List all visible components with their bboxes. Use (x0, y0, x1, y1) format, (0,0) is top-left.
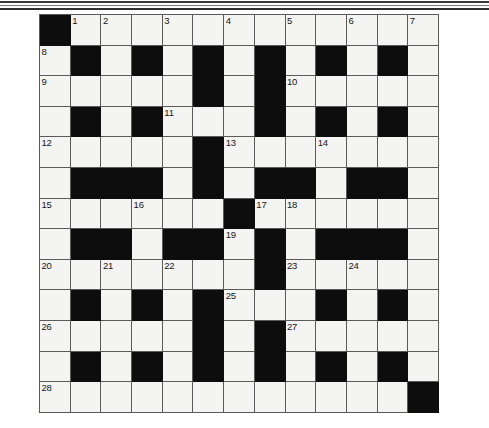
open-cell[interactable] (101, 321, 132, 352)
open-cell[interactable] (193, 107, 224, 138)
open-cell[interactable] (224, 321, 255, 352)
open-cell[interactable] (101, 290, 132, 321)
open-cell[interactable]: 12 (40, 137, 71, 168)
open-cell[interactable] (40, 107, 71, 138)
open-cell[interactable] (286, 107, 317, 138)
open-cell[interactable] (316, 168, 347, 199)
open-cell[interactable] (286, 137, 317, 168)
open-cell[interactable]: 2 (101, 15, 132, 46)
open-cell[interactable] (347, 321, 378, 352)
open-cell[interactable] (255, 137, 286, 168)
open-cell[interactable]: 23 (286, 260, 317, 291)
open-cell[interactable]: 26 (40, 321, 71, 352)
open-cell[interactable] (40, 290, 71, 321)
open-cell[interactable] (255, 382, 286, 413)
open-cell[interactable] (101, 107, 132, 138)
open-cell[interactable]: 18 (286, 199, 317, 230)
open-cell[interactable] (163, 199, 194, 230)
open-cell[interactable] (316, 15, 347, 46)
open-cell[interactable] (347, 137, 378, 168)
open-cell[interactable] (408, 199, 439, 230)
open-cell[interactable] (132, 137, 163, 168)
open-cell[interactable]: 21 (101, 260, 132, 291)
open-cell[interactable] (408, 137, 439, 168)
open-cell[interactable]: 1 (71, 15, 102, 46)
open-cell[interactable]: 14 (316, 137, 347, 168)
open-cell[interactable] (408, 321, 439, 352)
open-cell[interactable]: 17 (255, 199, 286, 230)
open-cell[interactable] (286, 382, 317, 413)
open-cell[interactable]: 5 (286, 15, 317, 46)
open-cell[interactable] (163, 46, 194, 77)
open-cell[interactable] (347, 46, 378, 77)
open-cell[interactable] (224, 382, 255, 413)
open-cell[interactable] (193, 260, 224, 291)
open-cell[interactable] (163, 352, 194, 383)
open-cell[interactable] (286, 46, 317, 77)
open-cell[interactable] (408, 290, 439, 321)
open-cell[interactable] (101, 46, 132, 77)
open-cell[interactable]: 16 (132, 199, 163, 230)
open-cell[interactable] (132, 229, 163, 260)
open-cell[interactable] (132, 260, 163, 291)
open-cell[interactable] (101, 382, 132, 413)
open-cell[interactable] (71, 260, 102, 291)
open-cell[interactable] (286, 352, 317, 383)
open-cell[interactable] (71, 199, 102, 230)
open-cell[interactable] (224, 168, 255, 199)
open-cell[interactable] (408, 352, 439, 383)
open-cell[interactable] (193, 382, 224, 413)
open-cell[interactable] (408, 107, 439, 138)
open-cell[interactable]: 4 (224, 15, 255, 46)
open-cell[interactable] (163, 290, 194, 321)
open-cell[interactable] (40, 168, 71, 199)
open-cell[interactable] (378, 260, 409, 291)
open-cell[interactable]: 6 (347, 15, 378, 46)
open-cell[interactable] (378, 199, 409, 230)
open-cell[interactable] (163, 382, 194, 413)
open-cell[interactable]: 9 (40, 76, 71, 107)
open-cell[interactable] (132, 382, 163, 413)
open-cell[interactable]: 3 (163, 15, 194, 46)
open-cell[interactable]: 11 (163, 107, 194, 138)
open-cell[interactable] (132, 76, 163, 107)
open-cell[interactable]: 15 (40, 199, 71, 230)
open-cell[interactable] (286, 290, 317, 321)
open-cell[interactable] (101, 137, 132, 168)
open-cell[interactable]: 7 (408, 15, 439, 46)
open-cell[interactable] (193, 15, 224, 46)
open-cell[interactable] (255, 290, 286, 321)
open-cell[interactable] (378, 321, 409, 352)
open-cell[interactable] (163, 137, 194, 168)
open-cell[interactable] (132, 321, 163, 352)
open-cell[interactable] (163, 168, 194, 199)
open-cell[interactable]: 13 (224, 137, 255, 168)
open-cell[interactable] (163, 321, 194, 352)
open-cell[interactable] (347, 107, 378, 138)
open-cell[interactable]: 25 (224, 290, 255, 321)
open-cell[interactable] (101, 76, 132, 107)
open-cell[interactable] (163, 76, 194, 107)
open-cell[interactable] (347, 352, 378, 383)
open-cell[interactable] (71, 76, 102, 107)
open-cell[interactable] (224, 107, 255, 138)
open-cell[interactable]: 19 (224, 229, 255, 260)
open-cell[interactable] (316, 321, 347, 352)
open-cell[interactable] (378, 76, 409, 107)
open-cell[interactable]: 10 (286, 76, 317, 107)
open-cell[interactable]: 22 (163, 260, 194, 291)
open-cell[interactable] (71, 321, 102, 352)
open-cell[interactable] (408, 76, 439, 107)
open-cell[interactable] (71, 137, 102, 168)
open-cell[interactable] (408, 260, 439, 291)
open-cell[interactable] (40, 352, 71, 383)
open-cell[interactable] (101, 352, 132, 383)
open-cell[interactable] (224, 76, 255, 107)
open-cell[interactable]: 28 (40, 382, 71, 413)
open-cell[interactable] (347, 382, 378, 413)
open-cell[interactable] (316, 260, 347, 291)
open-cell[interactable] (316, 199, 347, 230)
open-cell[interactable] (193, 199, 224, 230)
open-cell[interactable] (347, 290, 378, 321)
open-cell[interactable] (408, 46, 439, 77)
